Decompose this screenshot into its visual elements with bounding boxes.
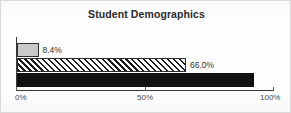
bar-series-1 xyxy=(17,43,39,57)
x-tick-label-0: 0% xyxy=(15,93,27,102)
x-tick-50 xyxy=(145,87,146,91)
x-tick-label-100: 100% xyxy=(260,93,280,102)
plot-area: 8.4% 66.0% 92.6% xyxy=(17,37,273,89)
x-tick-label-50: 50% xyxy=(137,93,153,102)
bar-label-1: 8.4% xyxy=(39,45,62,55)
x-tick-0 xyxy=(16,87,17,91)
chart-screenshot: Student Demographics 8.4% 66.0% 92.6% 0%… xyxy=(0,0,291,113)
bar-series-3 xyxy=(17,73,254,87)
bar-series-2 xyxy=(17,58,186,72)
x-tick-100 xyxy=(273,87,274,91)
bar-label-2: 66.0% xyxy=(186,60,214,70)
chart-title: Student Demographics xyxy=(1,8,291,20)
